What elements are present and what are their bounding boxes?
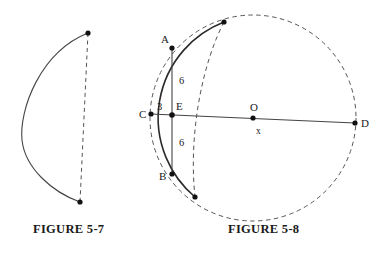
- figure-5-7-dashed-chord: [80, 33, 88, 202]
- point-D-dot: [352, 120, 357, 125]
- point-label-O: O: [250, 101, 258, 113]
- figure-5-8-inner-dashed-arc: [193, 22, 224, 197]
- point-A-dot: [169, 45, 174, 50]
- point-label-B: B: [159, 170, 166, 182]
- point-B-dot: [169, 171, 174, 176]
- figure-5-8-group: A B C D E O 6 3 6 x: [139, 15, 369, 221]
- figure-5-7-arc: [22, 33, 88, 202]
- figure-5-8-solid-left-arc: [158, 22, 224, 197]
- figure-5-8-caption: FIGURE 5-8: [228, 222, 299, 237]
- segment-EB-length: 6: [179, 137, 184, 148]
- point-label-D: D: [361, 117, 369, 129]
- point-O-dot: [250, 115, 255, 120]
- geometry-illustration: A B C D E O 6 3 6 x: [0, 0, 385, 256]
- segment-CE-length: 3: [157, 101, 162, 112]
- figure-5-7-bottom-point: [77, 199, 82, 204]
- point-label-A: A: [161, 33, 169, 45]
- segment-ED-variable: x: [256, 126, 261, 136]
- figure-5-7-top-point: [85, 30, 90, 35]
- figure-5-7-caption: FIGURE 5-7: [33, 222, 104, 237]
- point-C-dot: [148, 111, 153, 116]
- figures-board: A B C D E O 6 3 6 x FIGURE 5-7 FIGURE 5-…: [0, 0, 385, 256]
- point-label-E: E: [176, 100, 183, 112]
- dashed-chord-top-endpoint-dot: [221, 19, 226, 24]
- point-E-dot: [169, 112, 175, 118]
- segment-AE-length: 6: [179, 75, 184, 86]
- dashed-chord-bottom-endpoint-dot: [192, 194, 197, 199]
- figure-5-7-group: [22, 30, 91, 204]
- point-label-C: C: [139, 108, 146, 120]
